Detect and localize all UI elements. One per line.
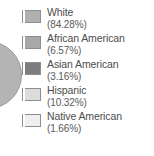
legend-swatch-native-american [22,114,41,127]
legend-item-african-american[interactable]: African American (6.57%) [22,33,154,59]
pie-chart-disc [0,41,22,109]
legend-text-asian-american: Asian American (3.16%) [47,59,119,82]
legend-label-african-american: African American [47,33,125,45]
legend-label-asian-american: Asian American [47,59,119,71]
legend-text-white: White (84.28%) [47,7,87,30]
legend-text-hispanic: Hispanic (10.32%) [47,85,87,108]
legend-text-african-american: African American (6.57%) [47,33,125,56]
legend-swatch-inner [23,62,25,81]
legend-value-native-american: (1.66%) [47,123,122,135]
legend-value-asian-american: (3.16%) [47,71,119,83]
legend-value-white: (84.28%) [47,19,87,31]
legend-label-white: White [47,7,87,19]
legend-label-native-american: Native American [47,111,122,123]
legend-swatch-inner [23,114,25,133]
legend-swatch-inner [23,36,25,55]
legend-item-white[interactable]: White (84.28%) [22,7,154,33]
legend-value-african-american: (6.57%) [47,45,125,57]
chart-legend: White (84.28%) African American (6.57%) … [22,7,154,137]
legend-swatch-asian-american [22,62,41,75]
pie-chart-graphic [0,41,24,111]
legend-value-hispanic: (10.32%) [47,97,87,109]
legend-item-asian-american[interactable]: Asian American (3.16%) [22,59,154,85]
legend-label-hispanic: Hispanic [47,85,87,97]
legend-text-native-american: Native American (1.66%) [47,111,122,134]
pie-chart-figure: White (84.28%) African American (6.57%) … [0,0,154,156]
legend-swatch-white [22,10,41,23]
legend-swatch-hispanic [22,88,41,101]
legend-swatch-african-american [22,36,41,49]
legend-item-native-american[interactable]: Native American (1.66%) [22,111,154,137]
legend-swatch-inner [23,10,25,29]
legend-swatch-inner [23,88,25,107]
legend-item-hispanic[interactable]: Hispanic (10.32%) [22,85,154,111]
